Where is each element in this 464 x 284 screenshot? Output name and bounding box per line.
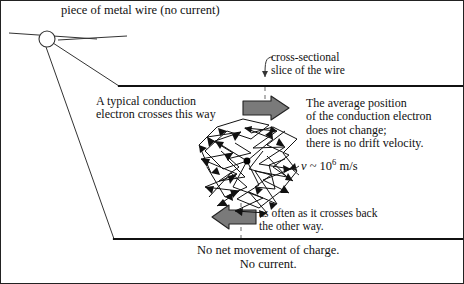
crosses-back-label: as often as it crosses back the other wa…: [259, 207, 377, 233]
wire-title-label: piece of metal wire (no current): [61, 3, 220, 17]
average-line-1: The average position: [306, 96, 407, 110]
often-line-1: as often as it crosses back: [259, 207, 377, 219]
electron-dot: [244, 158, 251, 165]
no-net-line-1: No net movement of charge.: [197, 243, 339, 257]
magnifier-cone-upper: [53, 43, 119, 86]
typical-line-2: electron crosses this way: [96, 107, 216, 121]
cross-section-label: cross-sectional slice of the wire: [271, 51, 345, 77]
average-line-3: does not change;: [306, 123, 387, 137]
electron-random-walk-path: [199, 119, 297, 213]
velocity-base: 10: [320, 159, 333, 173]
velocity-symbol: v: [301, 159, 307, 173]
often-line-2: the other way.: [259, 220, 324, 232]
velocity-relation: ~: [310, 159, 317, 173]
cross-section-line-1: cross-sectional: [271, 51, 339, 63]
wire-magnifier-circle: [39, 31, 55, 47]
typical-electron-label: A typical conduction electron crosses th…: [96, 95, 216, 122]
electron-crosses-left-arrow: [212, 205, 256, 229]
velocity-exponent: 6: [332, 157, 336, 167]
cross-section-leader-arrowhead: [262, 71, 268, 77]
velocity-units: m/s: [339, 159, 357, 173]
velocity-magnitude-label: v ~ 106 m/s: [301, 158, 358, 173]
average-position-label: The average position of the conduction e…: [306, 97, 432, 151]
cross-section-line-2: slice of the wire: [271, 64, 345, 76]
typical-line-1: A typical conduction: [96, 94, 196, 108]
electron-crosses-right-arrow: [243, 96, 289, 120]
average-line-2: of the conduction electron: [306, 109, 432, 123]
average-line-4: there is no drift velocity.: [306, 136, 424, 150]
no-net-movement-label: No net movement of charge.No current.: [197, 243, 339, 271]
no-net-line-2: No current.: [197, 257, 339, 271]
physics-figure-wire-no-current: piece of metal wire (no current) cross-s…: [0, 0, 464, 284]
